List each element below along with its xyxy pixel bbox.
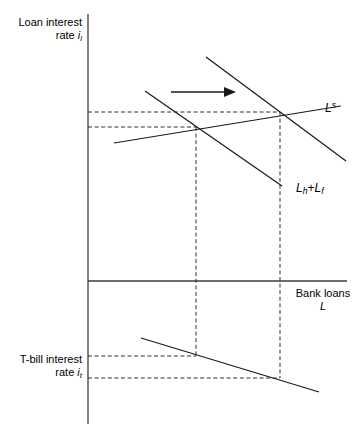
loan-demand-operator: + [307, 181, 314, 195]
upper-y-axis-label: Loan interest rate il [8, 16, 82, 45]
economics-diagram: Loan interest rate il T-bill interest ra… [0, 0, 364, 438]
lower-y-axis-label-subscript: t [80, 371, 82, 380]
loan-supply-superscript: s [332, 100, 336, 110]
tbill-rate-curve-line [141, 338, 319, 392]
upper-y-axis-label-subscript: l [80, 34, 82, 43]
x-axis-label-line1: Bank loans [288, 287, 358, 300]
loan-demand-initial-line [145, 91, 282, 186]
shift-arrow-head [224, 87, 236, 97]
lower-y-axis-label: T-bill interest rate it [4, 353, 82, 382]
lower-y-axis-label-line2: rate it [4, 366, 82, 382]
x-axis-label-symbol: L [288, 300, 358, 313]
loan-demand-subscript2: f [321, 186, 323, 196]
upper-y-axis-label-prefix: rate [56, 29, 78, 41]
loan-supply-curve-label: Ls [325, 99, 336, 115]
loan-demand-symbol1: L [296, 181, 303, 195]
x-axis-label: Bank loans L [288, 287, 358, 313]
lower-y-axis-label-prefix: rate [55, 366, 77, 378]
lower-y-axis-label-line1: T-bill interest [4, 353, 82, 366]
shift-arrow [171, 87, 236, 97]
loan-supply-symbol: L [325, 101, 332, 115]
loan-demand-curve-label: Lh+Lf [296, 182, 324, 198]
upper-y-axis-label-line1: Loan interest [8, 16, 82, 29]
upper-y-axis-label-line2: rate il [8, 29, 82, 45]
